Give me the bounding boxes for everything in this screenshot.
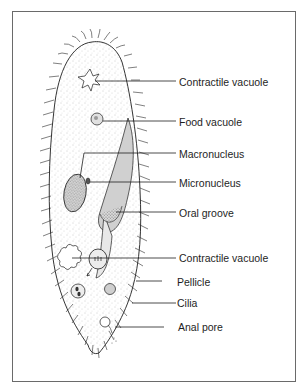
label-contractile-vacuole-top: Contractile vacuole (179, 76, 268, 88)
paramecium-illustration (0, 0, 304, 392)
label-micronucleus: Micronucleus (179, 177, 241, 189)
label-macronucleus: Macronucleus (179, 148, 244, 160)
label-cilia: Cilia (177, 297, 197, 309)
food-vacuole-shape (91, 113, 103, 125)
label-oral-groove: Oral groove (179, 207, 234, 219)
label-anal-pore: Anal pore (178, 321, 223, 333)
micronucleus-shape (86, 178, 90, 184)
label-contractile-vacuole-bottom: Contractile vacuole (179, 252, 268, 264)
label-pellicle: Pellicle (177, 276, 210, 288)
food-vacuole-lower-left (71, 284, 85, 298)
food-vacuole-lower-right (105, 284, 116, 295)
label-food-vacuole: Food vacuole (179, 116, 242, 128)
